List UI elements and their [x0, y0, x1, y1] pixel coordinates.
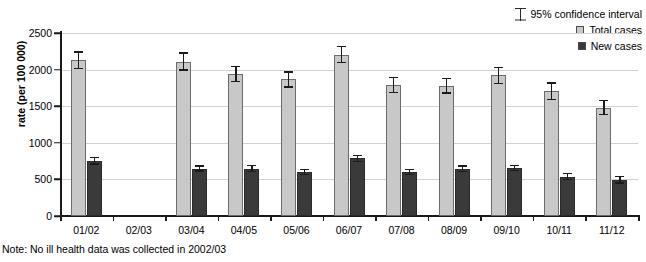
error-bar-cap-bottom [510, 170, 519, 171]
error-bar-cap-bottom [231, 81, 240, 82]
x-axis-tick-label: 10/11 [546, 224, 572, 236]
x-axis-tick-label: 07/08 [388, 224, 414, 236]
bar-group [71, 33, 102, 216]
x-axis-tick-label: 11/12 [599, 224, 625, 236]
error-bar-cap-bottom [458, 171, 467, 172]
error-bar-cap-top [74, 51, 83, 52]
y-axis-tick-label: 1000 [29, 137, 52, 149]
bar-new-cases [402, 172, 417, 216]
error-bar-cap-top [510, 165, 519, 166]
error-bar-cap-top [247, 165, 256, 166]
error-bar-cap-bottom [284, 86, 293, 87]
error-bar-stem [393, 77, 394, 93]
error-bar-stem [288, 71, 289, 87]
error-bar [300, 169, 309, 175]
bar-new-cases [560, 177, 575, 216]
bar-new-cases [455, 169, 470, 216]
bar-new-cases [87, 161, 102, 216]
x-axis-tick-mark [270, 215, 272, 221]
bar-total-cases [228, 74, 243, 216]
error-bar-cap-top [442, 78, 451, 79]
error-bar-cap-bottom [337, 62, 346, 63]
plot-area [60, 33, 638, 216]
legend-label-confidence-interval: 95% confidence interval [531, 9, 643, 20]
y-axis-tick-label: 0 [46, 210, 52, 222]
error-bar-cap-bottom [494, 83, 503, 84]
bar-total-cases [334, 55, 349, 216]
x-axis-tick-mark [323, 215, 325, 221]
x-axis-tick-mark [533, 215, 535, 221]
error-bar [90, 157, 99, 165]
bar-group [386, 33, 417, 216]
bar-new-cases [612, 180, 627, 216]
x-axis-tick-mark [113, 215, 115, 221]
x-axis-tick-mark [585, 215, 587, 221]
error-bar-cap-bottom [353, 161, 362, 162]
chart-figure: 95% confidence interval Total cases New … [0, 0, 646, 262]
error-bar-cap-top [195, 165, 204, 166]
bar-group [596, 33, 627, 216]
y-axis-tick-label: 2000 [29, 64, 52, 76]
bar-total-cases [439, 86, 454, 216]
confidence-interval-icon [515, 8, 526, 21]
error-bar [179, 52, 188, 70]
error-bar [195, 165, 204, 171]
error-bar-cap-top [599, 100, 608, 101]
bar-new-cases [244, 169, 259, 216]
error-bar [74, 51, 83, 69]
bar-group [176, 33, 207, 216]
error-bar-stem [78, 51, 79, 69]
bar-new-cases [350, 158, 365, 216]
error-bar [494, 67, 503, 85]
x-axis-tick-label: 01/02 [73, 224, 99, 236]
error-bar-stem [235, 66, 236, 82]
x-axis-tick-mark [165, 215, 167, 221]
bar-total-cases [491, 75, 506, 216]
error-bar-cap-top [615, 176, 624, 177]
error-bar-cap-bottom [300, 174, 309, 175]
x-axis-tick-mark [218, 215, 220, 221]
bar-group [123, 33, 154, 216]
error-bar [247, 165, 256, 172]
error-bar [563, 173, 572, 181]
error-bar-cap-bottom [547, 99, 556, 100]
error-bar [547, 82, 556, 100]
bar-group [544, 33, 575, 216]
bar-total-cases [544, 91, 559, 216]
x-axis-tick-mark [428, 215, 430, 221]
error-bar [337, 46, 346, 64]
bar-total-cases [281, 79, 296, 216]
error-bar-cap-bottom [74, 68, 83, 69]
error-bar-cap-top [90, 157, 99, 158]
bar-group [439, 33, 470, 216]
error-bar [405, 169, 414, 175]
legend-item-confidence-interval: 95% confidence interval [432, 6, 642, 22]
error-bar [442, 78, 451, 94]
x-axis-tick-label: 06/07 [336, 224, 362, 236]
error-bar-cap-bottom [389, 92, 398, 93]
error-bar-cap-bottom [599, 114, 608, 115]
x-axis-tick-label: 04/05 [231, 224, 257, 236]
x-axis-tick-label: 09/10 [493, 224, 519, 236]
error-bar-stem [551, 82, 552, 100]
error-bar-cap-top [458, 165, 467, 166]
x-axis-tick-label: 02/03 [126, 224, 152, 236]
error-bar [458, 165, 467, 172]
error-bar [599, 100, 608, 115]
x-axis-tick-label: 03/04 [178, 224, 204, 236]
y-axis-tick-label: 1500 [29, 100, 52, 112]
error-bar-stem [341, 46, 342, 64]
error-bar [510, 165, 519, 172]
y-axis-title: rate (per 100 000) [15, 19, 27, 149]
error-bar-cap-top [405, 169, 414, 170]
bar-total-cases [176, 62, 191, 216]
error-bar [389, 77, 398, 93]
error-bar-cap-bottom [247, 171, 256, 172]
x-axis-tick-mark [480, 215, 482, 221]
error-bar-cap-top [337, 46, 346, 47]
error-bar-cap-top [563, 173, 572, 174]
error-bar-cap-top [494, 67, 503, 68]
error-bar [284, 71, 293, 87]
error-bar-stem [498, 67, 499, 85]
bar-new-cases [297, 172, 312, 216]
